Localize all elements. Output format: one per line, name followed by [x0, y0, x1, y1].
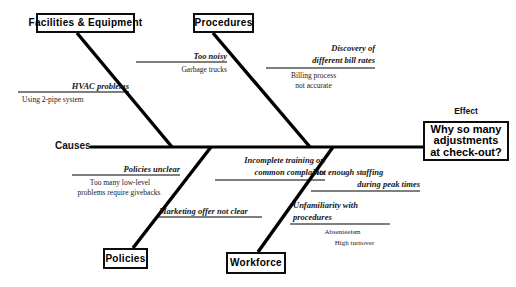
- cause-discovery-bill-rates-line-2: different bill rates: [266, 56, 375, 66]
- cause-too-noisy: Too noisy: [136, 52, 227, 62]
- effect-box[interactable]: Why so many adjustments at check-out?: [423, 121, 509, 161]
- causes-label: Causes: [55, 140, 91, 151]
- cause-incomplete-training-line-2: common complaints: [215, 168, 325, 178]
- category-box-workforce[interactable]: Workforce: [226, 252, 286, 274]
- cause-incomplete-training-line-1: Incomplete training on: [215, 156, 325, 166]
- cause-policies-unclear: Policies unclear: [72, 165, 180, 175]
- cause-unfamiliarity-line-2: procedures: [293, 213, 403, 223]
- sub-cause-absenteeism: Absenteeism: [300, 228, 385, 236]
- sub-cause-using-2-pipe-system: Using 2-pipe system: [22, 96, 142, 105]
- sub-cause-billing-process-line-2: not accurate: [266, 82, 361, 91]
- category-label-procedures: Procedures: [194, 18, 252, 28]
- sub-cause-problems-require-givebacks: problems require givebacks: [55, 189, 183, 198]
- effect-text-line-3: at check-out?: [430, 147, 502, 159]
- effect-text: Why so many adjustments at check-out?: [430, 124, 502, 159]
- category-label-workforce: Workforce: [230, 258, 282, 268]
- fishbone-diagram-canvas: Facilities & Equipment Procedures Polici…: [0, 0, 516, 287]
- cause-discovery-bill-rates-line-1: Discovery of: [266, 44, 375, 54]
- category-box-facilities-equipment[interactable]: Facilities & Equipment: [36, 13, 135, 33]
- category-box-policies[interactable]: Policies: [103, 248, 148, 269]
- sub-cause-garbage-trucks: Garbage trucks: [137, 66, 227, 75]
- cause-not-enough-staffing-line-2: during peak times: [311, 180, 420, 190]
- category-label-policies: Policies: [105, 254, 145, 264]
- cause-marketing-offer-not-clear: Marketing offer not clear: [159, 207, 279, 217]
- category-box-procedures[interactable]: Procedures: [193, 13, 254, 33]
- cause-unfamiliarity-line-1: Unfamiliarity with: [293, 201, 403, 211]
- sub-cause-high-turnover: High turnover: [312, 239, 397, 247]
- sub-cause-too-many-low-level: Too many low-level: [60, 179, 180, 188]
- effect-label: Effect: [423, 106, 509, 116]
- sub-cause-billing-process-line-1: Billing process: [266, 72, 361, 81]
- cause-not-enough-staffing-line-1: Not enough staffing: [313, 168, 423, 178]
- cause-hvac-problems: HVAC problems: [18, 82, 129, 92]
- category-label-facilities: Facilities & Equipment: [29, 18, 143, 28]
